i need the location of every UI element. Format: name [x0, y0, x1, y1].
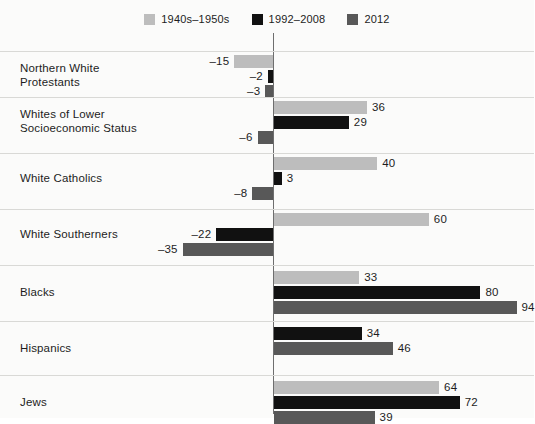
legend-label: 1940s–1950s [161, 13, 229, 25]
bar[interactable] [234, 55, 273, 68]
bar-value-label: 72 [465, 396, 478, 409]
group-separator [0, 51, 534, 52]
legend-entry[interactable]: 1992–2008 [252, 13, 326, 25]
bar[interactable] [274, 342, 393, 355]
bar[interactable] [274, 396, 460, 409]
bar-value-label: 40 [382, 157, 395, 170]
bar-value-label: 60 [434, 213, 447, 226]
group-separator [0, 375, 534, 376]
bar[interactable] [274, 101, 367, 114]
bar[interactable] [258, 131, 273, 144]
bar-value-label: –6 [239, 131, 252, 144]
chart-legend: 1940s–1950s1992–20082012 [0, 8, 534, 30]
legend-swatch-era3 [347, 14, 358, 25]
legend-label: 2012 [364, 13, 389, 25]
bar-value-label: 39 [380, 411, 393, 424]
category-label: Northern White Protestants [20, 61, 200, 89]
group-separator [0, 209, 534, 210]
category-label: White Southerners [20, 227, 200, 241]
group-separator [0, 153, 534, 154]
category-label: Whites of Lower Socioeconomic Status [20, 107, 200, 135]
bar[interactable] [274, 116, 349, 129]
bar[interactable] [216, 228, 273, 241]
bar-value-label: 29 [354, 116, 367, 129]
category-label: White Catholics [20, 171, 200, 185]
category-label: Hispanics [20, 341, 200, 355]
bar-value-label: 94 [522, 301, 535, 314]
bar[interactable] [274, 213, 429, 226]
bar[interactable] [274, 157, 377, 170]
bar[interactable] [274, 286, 480, 299]
bar[interactable] [274, 271, 359, 284]
bar[interactable] [183, 243, 273, 256]
bar-value-label: 64 [444, 381, 457, 394]
bar[interactable] [274, 327, 362, 340]
bar-value-label: 33 [364, 271, 377, 284]
legend-entry[interactable]: 1940s–1950s [144, 13, 229, 25]
bar-value-label: –8 [234, 187, 247, 200]
bar-value-label: 46 [398, 342, 411, 355]
bar[interactable] [268, 70, 273, 83]
legend-swatch-era1 [144, 14, 155, 25]
plot-area: Northern White Protestants–15–2–3Whites … [0, 33, 534, 414]
group-separator [0, 265, 534, 266]
bar-value-label: 36 [372, 101, 385, 114]
legend-swatch-era2 [252, 14, 263, 25]
bar-value-label: –35 [158, 243, 178, 256]
bar-value-label: 80 [485, 286, 498, 299]
group-separator [0, 321, 534, 322]
bar[interactable] [274, 411, 375, 424]
group-separator [0, 97, 534, 98]
category-label: Jews [20, 395, 200, 409]
bar[interactable] [252, 187, 273, 200]
legend-label: 1992–2008 [269, 13, 326, 25]
bar-value-label: –2 [250, 70, 263, 83]
category-label: Blacks [20, 285, 200, 299]
bar[interactable] [274, 301, 517, 314]
legend-entry[interactable]: 2012 [347, 13, 389, 25]
bar[interactable] [274, 172, 282, 185]
bar-value-label: –15 [210, 55, 230, 68]
bar[interactable] [274, 381, 439, 394]
bar-value-label: 3 [287, 172, 294, 185]
bar-value-label: 34 [367, 327, 380, 340]
bar-value-label: –22 [191, 228, 211, 241]
